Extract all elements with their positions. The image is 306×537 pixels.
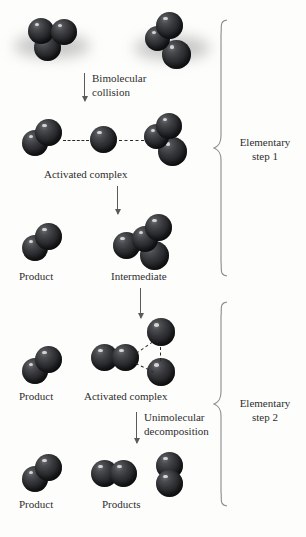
atom <box>35 346 62 373</box>
elementary-step-2-line1: Elementary <box>240 397 291 409</box>
complex1-left-dashed-bond <box>63 140 89 141</box>
atom <box>35 119 62 146</box>
unimolecular-decomposition-arrow <box>136 412 137 443</box>
products-label: Products <box>102 498 141 512</box>
intermediate-to-step2-arrow <box>140 288 141 318</box>
products-molecule-left <box>91 458 141 490</box>
complex1-left-fragment <box>22 118 70 158</box>
elementary-step-1-line1: Elementary <box>240 136 291 148</box>
intermediate-molecule <box>112 214 180 276</box>
complex1-transferred-atom <box>90 126 118 154</box>
step1-to-products-arrow <box>117 186 118 214</box>
product-molecule-2 <box>22 345 70 387</box>
activated-complex-2-label: Activated complex <box>84 390 167 404</box>
elementary-step-2-label: Elementary step 2 <box>226 396 304 424</box>
reaction-mechanism-figure: Bimolecular collision Activated complex … <box>0 0 306 537</box>
atom <box>156 470 183 497</box>
bimolecular-collision-label-line1: Bimolecular <box>92 72 146 86</box>
complex2-core-fragment <box>91 340 145 378</box>
product-3-label: Product <box>19 498 53 512</box>
atom <box>156 12 183 39</box>
product-molecule-1 <box>22 222 70 264</box>
complex2-bottom-atom <box>147 358 177 388</box>
intermediate-label: Intermediate <box>111 270 167 284</box>
complex1-right-dashed-bond <box>119 140 144 141</box>
bimolecular-collision-label-line2: collision <box>92 86 130 100</box>
atom <box>112 344 139 371</box>
atom <box>90 126 117 153</box>
product-1-label: Product <box>19 270 53 284</box>
atom <box>110 460 137 487</box>
complex1-right-fragment <box>142 113 202 167</box>
atom <box>51 19 77 45</box>
bimolecular-collision-arrow <box>84 73 85 101</box>
elementary-step-2-line2: step 2 <box>252 411 278 423</box>
activated-complex-1-label: Activated complex <box>44 168 127 182</box>
elementary-step-1-label: Elementary step 1 <box>226 135 304 163</box>
atom <box>156 113 182 139</box>
atom <box>35 223 62 250</box>
unimolecular-decomposition-label-line2: decomposition <box>144 425 209 439</box>
atom <box>145 214 172 241</box>
unimolecular-decomposition-label-line1: Unimolecular <box>144 411 204 425</box>
complex2-top-atom <box>147 318 177 348</box>
product-molecule-3 <box>22 453 70 495</box>
products-molecule-right <box>155 452 189 500</box>
elementary-step-1-line2: step 1 <box>252 150 278 162</box>
reactant-molecule-a <box>24 14 88 70</box>
product-2-label: Product <box>19 390 53 404</box>
atom <box>35 454 62 481</box>
reactant-molecule-b <box>140 10 210 72</box>
complex2-dashed-bond-vertical <box>160 347 161 361</box>
